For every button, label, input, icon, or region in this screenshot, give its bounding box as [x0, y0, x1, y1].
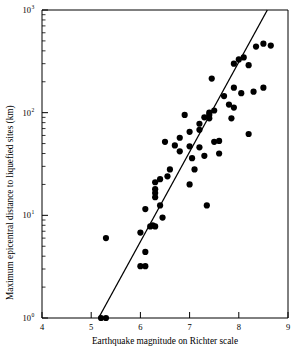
data-point — [228, 115, 234, 121]
y-axis-ticks — [42, 10, 48, 318]
data-point — [162, 139, 168, 145]
data-point — [209, 75, 215, 81]
data-point — [187, 181, 193, 187]
data-point — [231, 85, 237, 91]
svg-text:10: 10 — [23, 108, 32, 118]
data-point — [268, 43, 274, 49]
plot-canvas: Maximum epicentral distance to liquefied… — [0, 0, 301, 353]
data-point — [196, 121, 202, 127]
data-point — [246, 62, 252, 68]
svg-text:10: 10 — [23, 5, 32, 15]
x-tick-label: 7 — [187, 322, 191, 332]
data-point — [103, 235, 109, 241]
data-point — [260, 41, 266, 47]
svg-text:10: 10 — [23, 313, 32, 323]
svg-text:3: 3 — [32, 4, 35, 10]
data-point — [157, 176, 163, 182]
data-point — [177, 135, 183, 141]
data-point — [137, 229, 143, 235]
data-point — [241, 54, 247, 60]
data-point — [238, 90, 244, 96]
data-point — [157, 202, 163, 208]
data-point — [253, 44, 259, 50]
y-axis-title: Maximum epicentral distance to liquefied… — [5, 105, 16, 300]
data-point — [221, 93, 227, 99]
y-tick-label: 103 — [23, 4, 35, 15]
data-point — [142, 249, 148, 255]
data-point — [142, 206, 148, 212]
x-tick-label: 4 — [40, 322, 45, 332]
scatter-plot-figure: Maximum epicentral distance to liquefied… — [0, 0, 301, 353]
x-tick-label: 8 — [237, 322, 241, 332]
data-point — [191, 166, 197, 172]
data-point — [142, 263, 148, 269]
data-point — [206, 115, 212, 121]
y-tick-label: 100 — [23, 312, 35, 323]
data-point — [103, 315, 109, 321]
y-tick-label: 101 — [23, 209, 35, 220]
x-axis-ticks — [42, 312, 288, 318]
x-axis-title: Earthquake magnitude on Richter scale — [92, 336, 238, 346]
data-point — [231, 61, 237, 67]
data-point — [216, 150, 222, 156]
data-point — [187, 129, 193, 135]
data-point — [167, 166, 173, 172]
x-tick-label: 9 — [286, 322, 290, 332]
data-point — [182, 112, 188, 118]
x-tick-label: 6 — [138, 322, 142, 332]
data-point — [246, 131, 252, 137]
x-tick-label: 5 — [89, 322, 93, 332]
y-axis-title-text: Maximum epicentral distance to liquefied… — [5, 105, 16, 300]
axes-frame — [42, 10, 288, 318]
data-point — [204, 202, 210, 208]
data-point — [152, 186, 158, 192]
data-point — [260, 85, 266, 91]
data-point — [196, 127, 202, 133]
svg-text:1: 1 — [32, 209, 35, 215]
data-points — [98, 41, 274, 322]
data-point — [201, 153, 207, 159]
data-point — [177, 148, 183, 154]
data-point — [187, 143, 193, 149]
data-point — [216, 138, 222, 144]
data-point — [189, 155, 195, 161]
data-point — [211, 107, 217, 113]
data-point — [159, 215, 165, 221]
data-point — [250, 89, 256, 95]
x-axis-title-text: Earthquake magnitude on Richter scale — [92, 336, 238, 346]
svg-text:2: 2 — [32, 107, 35, 113]
data-point — [196, 144, 202, 150]
data-point — [150, 222, 156, 228]
y-tick-label: 102 — [23, 107, 35, 118]
x-axis-tick-labels: 456789 — [40, 322, 290, 332]
data-point — [164, 173, 170, 179]
y-axis-tick-labels: 100101102103 — [23, 4, 35, 323]
data-point — [231, 105, 237, 111]
svg-text:0: 0 — [32, 312, 35, 318]
svg-text:10: 10 — [23, 210, 32, 220]
data-point — [172, 142, 178, 148]
